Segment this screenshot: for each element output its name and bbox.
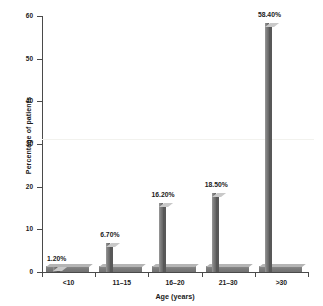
bar-top-face xyxy=(212,193,226,197)
bar-front-face xyxy=(159,203,163,272)
bar xyxy=(159,203,163,272)
y-tick xyxy=(37,16,43,17)
bar-side-face xyxy=(163,205,166,272)
bar-side-face xyxy=(216,195,219,272)
x-tick xyxy=(95,272,96,277)
x-tick-label: 16–20 xyxy=(145,279,205,286)
bar-value-label: 18.50% xyxy=(189,181,243,188)
x-tick xyxy=(202,272,203,277)
y-tick-label: 60 xyxy=(3,12,33,19)
x-axis-title: Age (years) xyxy=(42,292,308,301)
bar xyxy=(265,23,269,272)
x-tick-label: 21–30 xyxy=(198,279,258,286)
y-tick xyxy=(37,229,43,230)
bar-value-label: 1.20% xyxy=(30,255,84,262)
y-tick-label: 20 xyxy=(3,183,33,190)
y-tick-label: 10 xyxy=(3,225,33,232)
bar-top-face xyxy=(265,23,279,27)
bar xyxy=(53,267,57,272)
x-tick-label: >30 xyxy=(251,279,311,286)
y-tick-label: 50 xyxy=(3,55,33,62)
y-tick xyxy=(37,59,43,60)
x-axis-line xyxy=(42,272,308,273)
y-tick xyxy=(37,101,43,102)
y-tick xyxy=(37,187,43,188)
y-tick-label: 40 xyxy=(3,97,33,104)
x-tick xyxy=(255,272,256,277)
bar xyxy=(212,193,216,272)
bar-side-face xyxy=(110,245,113,272)
y-tick-label: 0 xyxy=(3,268,33,275)
bar-front-face xyxy=(212,193,216,272)
x-tick xyxy=(308,272,309,277)
x-tick xyxy=(42,272,43,277)
bar-chart: Percentage of patients 0102030405060 1.2… xyxy=(0,0,323,306)
bar-front-face xyxy=(106,243,110,272)
bar-value-label: 58.40% xyxy=(242,11,296,18)
bar-top-face xyxy=(106,243,120,247)
bar-value-label: 6.70% xyxy=(83,231,137,238)
bar-value-label: 16.20% xyxy=(136,191,190,198)
bar-side-face xyxy=(269,25,272,272)
y-tick-label: 30 xyxy=(3,140,33,147)
bar-front-face xyxy=(265,23,269,272)
x-tick xyxy=(148,272,149,277)
x-tick-label: 11–15 xyxy=(92,279,152,286)
scan-artifact-line xyxy=(42,139,314,140)
bar xyxy=(106,243,110,272)
x-tick-label: <10 xyxy=(39,279,99,286)
y-tick xyxy=(37,144,43,145)
